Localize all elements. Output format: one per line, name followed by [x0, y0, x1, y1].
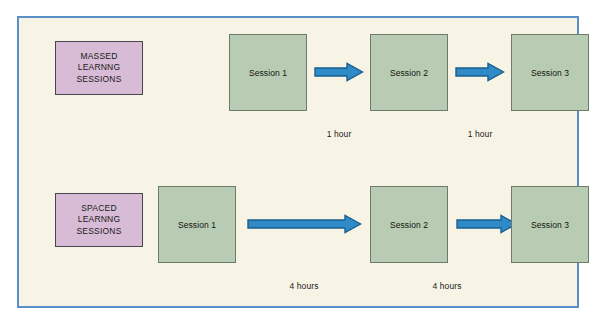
- arrow-massed-2: [455, 62, 505, 82]
- session-box-label: Session 1: [249, 68, 287, 78]
- interval-label-massed-1: 1 hour: [299, 129, 379, 139]
- session-box-spaced-1: Session 1: [158, 186, 236, 263]
- diagram-frame: MASSED LEARNNG SESSIONS Session 1 Sessio…: [17, 16, 579, 308]
- category-box-massed: MASSED LEARNNG SESSIONS: [55, 41, 143, 95]
- category-box-spaced: SPACED LEARNNG SESSIONS: [55, 193, 143, 247]
- category-label-line-3: SESSIONS: [76, 226, 121, 238]
- session-box-label: Session 1: [178, 220, 216, 230]
- session-box-massed-3: Session 3: [511, 34, 589, 111]
- category-label-line-1: MASSED: [80, 51, 117, 63]
- session-box-label: Session 2: [390, 220, 428, 230]
- session-box-label: Session 3: [531, 68, 569, 78]
- session-box-label: Session 2: [390, 68, 428, 78]
- session-box-massed-1: Session 1: [229, 34, 307, 111]
- diagram-canvas: MASSED LEARNNG SESSIONS Session 1 Sessio…: [19, 18, 577, 306]
- category-label-line-2: LEARNNG: [78, 62, 121, 74]
- session-box-spaced-2: Session 2: [370, 186, 448, 263]
- interval-label-massed-2: 1 hour: [440, 129, 520, 139]
- category-label-line-1: SPACED: [81, 203, 117, 215]
- interval-label-spaced-2: 4 hours: [407, 281, 487, 291]
- session-box-label: Session 3: [531, 220, 569, 230]
- session-box-spaced-3: Session 3: [511, 186, 589, 263]
- session-box-massed-2: Session 2: [370, 34, 448, 111]
- category-label-line-3: SESSIONS: [76, 74, 121, 86]
- interval-label-spaced-1: 4 hours: [264, 281, 344, 291]
- arrow-massed-1: [314, 62, 364, 82]
- arrow-spaced-1: [247, 214, 362, 234]
- category-label-line-2: LEARNNG: [78, 214, 121, 226]
- arrow-spaced-2: [456, 214, 518, 234]
